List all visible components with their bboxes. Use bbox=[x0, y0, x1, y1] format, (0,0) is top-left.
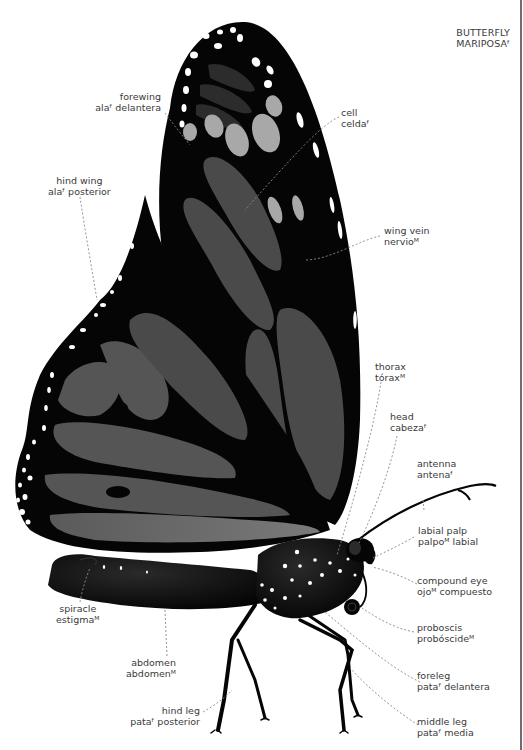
label-foreleg: foreleg pataᶠ delantera bbox=[417, 670, 490, 692]
butterfly-diagram: BUTTERFLY MARIPOSAᶠ forewing alaᶠ delant… bbox=[0, 0, 523, 750]
label-wing-vein: wing vein nervioᴹ bbox=[384, 225, 430, 247]
label-antenna: antenna antenaᶠ bbox=[417, 458, 456, 480]
label-hind-leg: hind leg pataᶠ posterior bbox=[130, 705, 200, 727]
label-thorax: thorax tóraxᴹ bbox=[375, 361, 406, 383]
legs bbox=[211, 605, 362, 733]
label-compound-eye: compound eye ojoᴹ compuesto bbox=[417, 575, 492, 597]
page-edge-divider bbox=[520, 0, 522, 750]
label-forewing: forewing alaᶠ delantera bbox=[95, 91, 161, 113]
label-head: head cabezaᶠ bbox=[390, 411, 427, 433]
label-proboscis: proboscis probóscideᴹ bbox=[417, 622, 474, 644]
diagram-title: BUTTERFLY MARIPOSAᶠ bbox=[456, 27, 510, 49]
label-hind-wing: hind wing alaᶠ posterior bbox=[48, 175, 111, 197]
label-spiracle: spiracle estigmaᴹ bbox=[56, 603, 99, 625]
label-abdomen: abdomen abdomenᴹ bbox=[126, 657, 176, 679]
abdomen bbox=[48, 554, 276, 609]
label-labial-palp: labial palp palpoᴹ labial bbox=[418, 525, 478, 547]
title-en: BUTTERFLY bbox=[456, 27, 510, 38]
label-middle-leg: middle leg pataᶠ media bbox=[417, 716, 474, 738]
label-cell: cell celdaᶠ bbox=[341, 107, 369, 129]
title-es: MARIPOSAᶠ bbox=[456, 38, 510, 49]
